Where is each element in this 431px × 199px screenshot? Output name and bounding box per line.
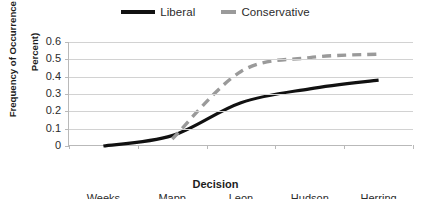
x-axis-tick-mark xyxy=(138,145,139,149)
x-axis-tick-label: Weeks xyxy=(67,192,139,199)
x-axis-tick-mark xyxy=(413,145,414,149)
x-axis-tick-mark xyxy=(344,145,345,149)
y-axis-tick-label: 0.1 xyxy=(27,122,61,134)
y-axis-title-line1: Frequency of Occurrence (in xyxy=(7,0,18,127)
y-axis-tick-mark xyxy=(65,129,69,130)
y-axis-tick-label: 0 xyxy=(27,139,61,151)
x-axis-tick-label: Hudson xyxy=(274,192,346,199)
series-line-liberal xyxy=(103,80,378,146)
y-axis-tick-label: 0.3 xyxy=(27,87,61,99)
y-axis-tick-label: 0.5 xyxy=(27,52,61,64)
legend-item-conservative[interactable]: Conservative xyxy=(221,6,309,18)
series-line-conservative xyxy=(172,54,378,139)
y-axis-tick-label: 0.2 xyxy=(27,104,61,116)
plot-area: 0.60.50.40.30.20.10WeeksMappLeonHudsonHe… xyxy=(68,42,412,146)
y-axis-tick-mark xyxy=(65,77,69,78)
x-axis-tick-label: Mapp xyxy=(136,192,208,199)
y-axis-tick-mark xyxy=(65,59,69,60)
legend-swatch-conservative-dashed-line-icon xyxy=(221,10,236,14)
y-axis-tick-label: 0.4 xyxy=(27,70,61,82)
y-axis-tick-mark xyxy=(65,94,69,95)
gridline xyxy=(69,59,413,60)
legend-label-conservative: Conservative xyxy=(241,6,309,18)
chart-legend: Liberal Conservative xyxy=(0,6,431,18)
x-axis-tick-mark xyxy=(207,145,208,149)
gridline xyxy=(69,129,413,130)
legend-swatch-liberal-solid-line-icon xyxy=(121,10,155,14)
x-axis-title: Decision xyxy=(0,178,431,190)
x-axis-tick-mark xyxy=(275,145,276,149)
y-axis-tick-mark xyxy=(65,42,69,43)
legend-item-liberal[interactable]: Liberal xyxy=(121,6,195,18)
gridline xyxy=(69,111,413,112)
x-axis-tick-label: Leon xyxy=(205,192,277,199)
line-chart: Liberal Conservative Frequency of Occurr… xyxy=(0,0,431,199)
x-axis-tick-mark xyxy=(69,145,70,149)
y-axis-tick-mark xyxy=(65,111,69,112)
x-axis-tick-label: Herring xyxy=(343,192,415,199)
gridline xyxy=(69,77,413,78)
gridline xyxy=(69,94,413,95)
legend-label-liberal: Liberal xyxy=(160,6,195,18)
y-axis-tick-label: 0.6 xyxy=(27,35,61,47)
gridline xyxy=(69,42,413,43)
